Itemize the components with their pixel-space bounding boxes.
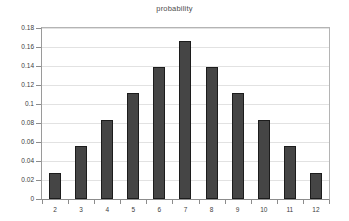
y-axis-label: 0.18 — [21, 24, 34, 31]
chart-title: probability — [0, 4, 349, 13]
x-axis-label: 7 — [172, 206, 198, 214]
x-axis-tick — [251, 200, 252, 204]
y-axis-label: 0.08 — [21, 119, 34, 126]
bar-slot — [303, 28, 329, 199]
x-axis-label: 9 — [225, 206, 251, 214]
x-axis-tick — [94, 200, 95, 204]
x-axis-label: 5 — [120, 206, 146, 214]
x-axis-label: 11 — [277, 206, 303, 214]
y-axis-label: 0.1 — [25, 100, 34, 107]
bar[interactable] — [232, 93, 244, 199]
y-axis-tick — [36, 104, 41, 105]
y-axis-label: 0.12 — [21, 81, 34, 88]
bar[interactable] — [101, 120, 113, 199]
y-axis-tick — [36, 85, 41, 86]
y-axis-tick — [36, 199, 41, 200]
x-axis-tick — [329, 200, 330, 204]
bar-slot — [94, 28, 120, 199]
bar-slot — [199, 28, 225, 199]
bar[interactable] — [49, 173, 61, 199]
bar[interactable] — [310, 173, 322, 199]
x-axis-label: 10 — [251, 206, 277, 214]
x-axis-label: 6 — [146, 206, 172, 214]
bar[interactable] — [179, 41, 191, 199]
x-axis-tick — [120, 200, 121, 204]
bar[interactable] — [284, 146, 296, 199]
x-axis-tick — [68, 200, 69, 204]
bar-slot — [277, 28, 303, 199]
bar-series — [42, 28, 329, 199]
x-axis-label: 4 — [94, 206, 120, 214]
y-axis-label: 0.16 — [21, 43, 34, 50]
probability-bar-chart: probability 00.020.040.060.080.10.120.14… — [0, 0, 349, 221]
bar[interactable] — [258, 120, 270, 199]
y-axis-tick — [36, 47, 41, 48]
bar-slot — [42, 28, 68, 199]
y-axis-tick — [36, 161, 41, 162]
y-axis-label: 0.02 — [21, 176, 34, 183]
bar-slot — [120, 28, 146, 199]
x-axis-tick — [303, 200, 304, 204]
y-axis-tick — [36, 180, 41, 181]
x-axis-tick — [42, 200, 43, 204]
bar-slot — [172, 28, 198, 199]
bar-slot — [146, 28, 172, 199]
bar[interactable] — [127, 93, 139, 199]
x-axis-tick — [277, 200, 278, 204]
bar-slot — [225, 28, 251, 199]
x-axis-tick — [146, 200, 147, 204]
x-axis-label: 8 — [199, 206, 225, 214]
bar-slot — [68, 28, 94, 199]
y-axis-label: 0.14 — [21, 62, 34, 69]
x-axis-tick — [199, 200, 200, 204]
bar[interactable] — [206, 67, 218, 199]
bar-slot — [251, 28, 277, 199]
y-axis-tick — [36, 123, 41, 124]
bar[interactable] — [75, 146, 87, 199]
x-axis-label: 2 — [42, 206, 68, 214]
y-axis-label: 0.06 — [21, 138, 34, 145]
y-axis-tick — [36, 142, 41, 143]
x-axis-label: 12 — [303, 206, 329, 214]
y-axis-tick — [36, 28, 41, 29]
y-axis-label: 0.04 — [21, 157, 34, 164]
x-axis-label: 3 — [68, 206, 94, 214]
y-axis-label: 0 — [30, 195, 34, 202]
y-axis-tick — [36, 66, 41, 67]
plot-area — [41, 27, 330, 200]
x-axis-tick — [225, 200, 226, 204]
x-axis-tick — [172, 200, 173, 204]
bar[interactable] — [153, 67, 165, 199]
